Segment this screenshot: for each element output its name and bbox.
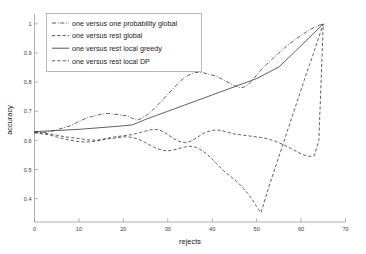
x-tick-label: 50 <box>254 226 260 232</box>
y-tick-label: 0.4 <box>24 196 32 202</box>
y-tick-label: 1 <box>28 21 31 27</box>
y-axis-label: accuracy <box>5 105 14 135</box>
x-axis-ticks: 010203040506070 <box>33 219 349 232</box>
y-tick-label: 0.5 <box>24 167 32 173</box>
y-axis-ticks: 0.40.50.60.70.80.91 <box>24 21 38 202</box>
y-tick-label: 0.7 <box>24 108 32 114</box>
x-tick-label: 30 <box>165 226 171 232</box>
x-tick-label: 20 <box>120 226 126 232</box>
x-tick-label: 0 <box>33 226 36 232</box>
y-tick-label: 0.8 <box>24 79 32 85</box>
x-tick-label: 10 <box>76 226 82 232</box>
y-tick-label: 0.6 <box>24 138 32 144</box>
x-tick-label: 60 <box>298 226 304 232</box>
legend-label-2: one versus rest local greedy <box>72 44 162 53</box>
chart-plot-area: 010203040506070 0.40.50.60.70.80.91 reje… <box>0 0 366 254</box>
legend-label-3: one versus rest local DP <box>72 57 150 66</box>
chart-legend: one versus one probability globalone ver… <box>47 14 202 72</box>
x-tick-label: 70 <box>342 226 348 232</box>
legend-label-0: one versus one probability global <box>72 19 177 28</box>
y-tick-label: 0.9 <box>24 50 32 56</box>
chart-figure: 010203040506070 0.40.50.60.70.80.91 reje… <box>0 0 366 254</box>
x-axis-label: rejects <box>179 237 201 246</box>
x-tick-label: 40 <box>209 226 215 232</box>
legend-label-1: one versus rest global <box>72 31 143 40</box>
